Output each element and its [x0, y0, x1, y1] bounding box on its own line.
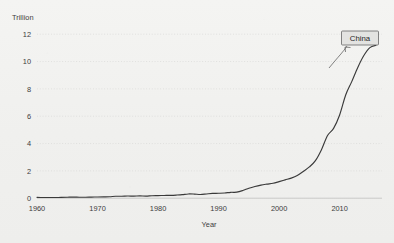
line-chart: 024681012 196019701980199020002010 Trill…: [0, 0, 394, 243]
callout-label-china: China: [350, 34, 371, 43]
y-axis-unit-label: Trillion: [12, 13, 34, 22]
x-axis-tick-label: 1970: [89, 204, 105, 213]
chart-container: 024681012 196019701980199020002010 Trill…: [0, 0, 394, 243]
callout-leader-line: [329, 46, 347, 68]
x-axis-tick-label: 1960: [29, 204, 45, 213]
gridline-group: [37, 34, 382, 171]
x-axis-tick-label: 1990: [210, 204, 226, 213]
data-line-china: [37, 45, 376, 197]
y-axis-tick-group: 024681012: [23, 30, 31, 203]
x-axis-tick-label: 2010: [331, 204, 347, 213]
x-axis-tick-group: 196019701980199020002010: [29, 204, 348, 213]
y-axis-tick-label: 8: [27, 85, 31, 94]
y-axis-tick-label: 12: [23, 30, 31, 39]
y-axis-tick-label: 0: [27, 194, 31, 203]
x-axis-tick-label: 2000: [271, 204, 287, 213]
x-axis-title: Year: [202, 220, 217, 229]
y-axis-tick-label: 10: [23, 57, 31, 66]
y-axis-tick-label: 6: [27, 112, 31, 121]
x-axis-tick-label: 1980: [150, 204, 166, 213]
y-axis-tick-label: 2: [27, 167, 31, 176]
y-axis-tick-label: 4: [27, 139, 31, 148]
